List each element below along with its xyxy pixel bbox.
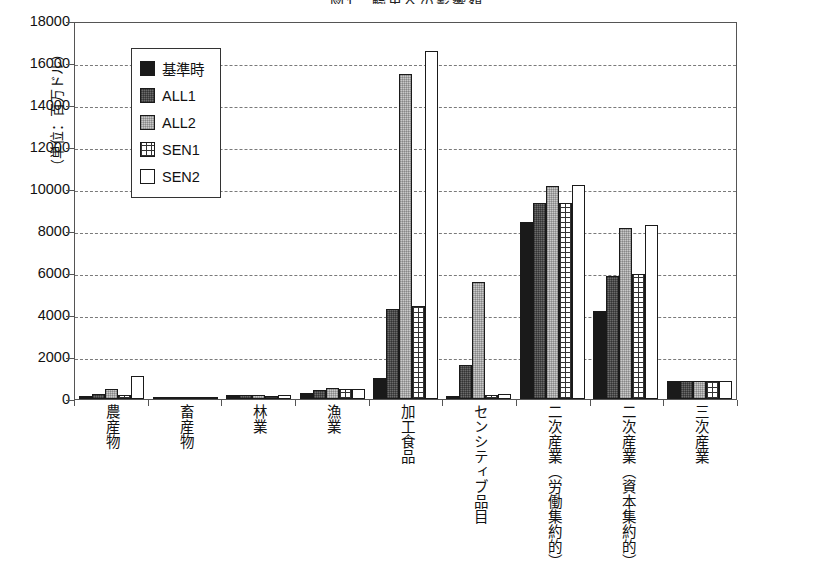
bar bbox=[693, 381, 706, 399]
y-axis-tick-label: 14000 bbox=[12, 97, 70, 113]
bar bbox=[472, 282, 485, 399]
bar bbox=[265, 396, 278, 399]
bar bbox=[645, 225, 658, 399]
y-axis-tick-label: 0 bbox=[12, 391, 70, 407]
x-axis-category-label: 二次産業（資本集約的） bbox=[619, 404, 634, 554]
legend-item-label: ALL1 bbox=[162, 88, 196, 104]
bar-group bbox=[295, 23, 368, 399]
x-axis-tick-mark bbox=[737, 400, 738, 406]
legend-swatch-icon bbox=[140, 142, 155, 157]
x-axis-label-cell: 漁業 bbox=[295, 404, 369, 554]
bar bbox=[680, 381, 693, 399]
bar bbox=[373, 378, 386, 399]
y-axis-tick-mark bbox=[66, 190, 74, 191]
bar bbox=[166, 397, 179, 399]
bar-group bbox=[369, 23, 442, 399]
bar bbox=[593, 311, 606, 399]
legend: 基準時 ALL1 ALL2 SEN1 SEN2 bbox=[131, 48, 221, 198]
y-axis-tick-mark bbox=[66, 106, 74, 107]
legend-item: SEN2 bbox=[140, 163, 214, 190]
legend-swatch-icon bbox=[140, 115, 155, 130]
bar bbox=[192, 397, 205, 399]
bar bbox=[313, 390, 326, 399]
y-axis-tick-mark bbox=[66, 22, 74, 23]
y-axis-tick-label: 18000 bbox=[12, 13, 70, 29]
bar bbox=[386, 309, 399, 399]
bar bbox=[459, 365, 472, 399]
x-axis-category-label: 三次産業 bbox=[693, 404, 708, 554]
x-axis-label-cell: 三次産業 bbox=[663, 404, 737, 554]
y-axis-tick-label: 12000 bbox=[12, 139, 70, 155]
bar bbox=[252, 395, 265, 399]
x-axis-label-cell: 加工食品 bbox=[369, 404, 443, 554]
bar-group bbox=[589, 23, 662, 399]
x-axis-category-label: 漁業 bbox=[324, 404, 339, 554]
x-axis-label-cell: 二次産業（労働集約的） bbox=[516, 404, 590, 554]
chart-title: 図1 輸出への影響額 bbox=[0, 0, 814, 4]
x-axis-label-cell: 林業 bbox=[221, 404, 295, 554]
bar bbox=[226, 395, 239, 399]
x-axis-category-label: 林業 bbox=[251, 404, 266, 554]
bar bbox=[498, 394, 511, 399]
bar bbox=[326, 388, 339, 399]
y-axis-tick-mark bbox=[66, 400, 74, 401]
y-axis-tick-label: 10000 bbox=[12, 181, 70, 197]
x-axis-category-label: 加工食品 bbox=[398, 404, 413, 554]
bar bbox=[105, 389, 118, 399]
x-axis-label-cell: 二次産業（資本集約的） bbox=[590, 404, 664, 554]
bar bbox=[632, 274, 645, 399]
bar bbox=[205, 397, 218, 399]
bar bbox=[425, 51, 438, 399]
legend-swatch-icon bbox=[140, 169, 155, 184]
bar bbox=[533, 203, 546, 399]
y-axis-tick-label: 2000 bbox=[12, 349, 70, 365]
bar-group bbox=[442, 23, 515, 399]
bar-group bbox=[663, 23, 736, 399]
y-axis-tick-mark bbox=[66, 148, 74, 149]
bar bbox=[546, 186, 559, 399]
bar bbox=[485, 395, 498, 399]
legend-item: SEN1 bbox=[140, 136, 214, 163]
bar bbox=[399, 74, 412, 400]
bar bbox=[239, 395, 252, 399]
y-axis-tick-mark bbox=[66, 358, 74, 359]
y-axis-tick-mark bbox=[66, 316, 74, 317]
y-axis-tick-mark bbox=[66, 64, 74, 65]
legend-item: 基準時 bbox=[140, 55, 214, 82]
bar bbox=[667, 381, 680, 399]
bar bbox=[572, 185, 585, 399]
bar bbox=[446, 396, 459, 399]
legend-item-label: 基準時 bbox=[162, 58, 204, 79]
bar bbox=[706, 381, 719, 399]
bar bbox=[79, 396, 92, 399]
bar-group bbox=[222, 23, 295, 399]
legend-swatch-icon bbox=[140, 88, 155, 103]
legend-item-label: SEN1 bbox=[162, 142, 200, 158]
y-axis-tick-mark bbox=[66, 274, 74, 275]
x-axis-category-label: 農産物 bbox=[103, 404, 118, 554]
bar bbox=[619, 228, 632, 399]
bar-group bbox=[516, 23, 589, 399]
bar bbox=[520, 222, 533, 399]
bar bbox=[412, 306, 425, 399]
bar bbox=[153, 397, 166, 399]
x-axis-label-cell: センシティブ品目 bbox=[442, 404, 516, 554]
legend-item: ALL2 bbox=[140, 109, 214, 136]
bar bbox=[92, 394, 105, 399]
x-axis-labels: 農産物畜産物林業漁業加工食品センシティブ品目二次産業（労働集約的）二次産業（資本… bbox=[74, 404, 737, 554]
x-axis-label-cell: 農産物 bbox=[74, 404, 148, 554]
legend-swatch-icon bbox=[140, 61, 155, 76]
y-axis-tick-mark bbox=[66, 232, 74, 233]
legend-item-label: ALL2 bbox=[162, 115, 196, 131]
legend-item-label: SEN2 bbox=[162, 169, 200, 185]
bar bbox=[118, 395, 131, 399]
x-axis-category-label: 二次産業（労働集約的） bbox=[545, 404, 560, 554]
bar bbox=[300, 393, 313, 399]
y-axis-tick-label: 16000 bbox=[12, 55, 70, 71]
y-axis-tick-label: 6000 bbox=[12, 265, 70, 281]
bar bbox=[719, 381, 732, 399]
x-axis-category-label: センシティブ品目 bbox=[472, 404, 487, 554]
x-axis-category-label: 畜産物 bbox=[177, 404, 192, 554]
bar bbox=[131, 376, 144, 399]
